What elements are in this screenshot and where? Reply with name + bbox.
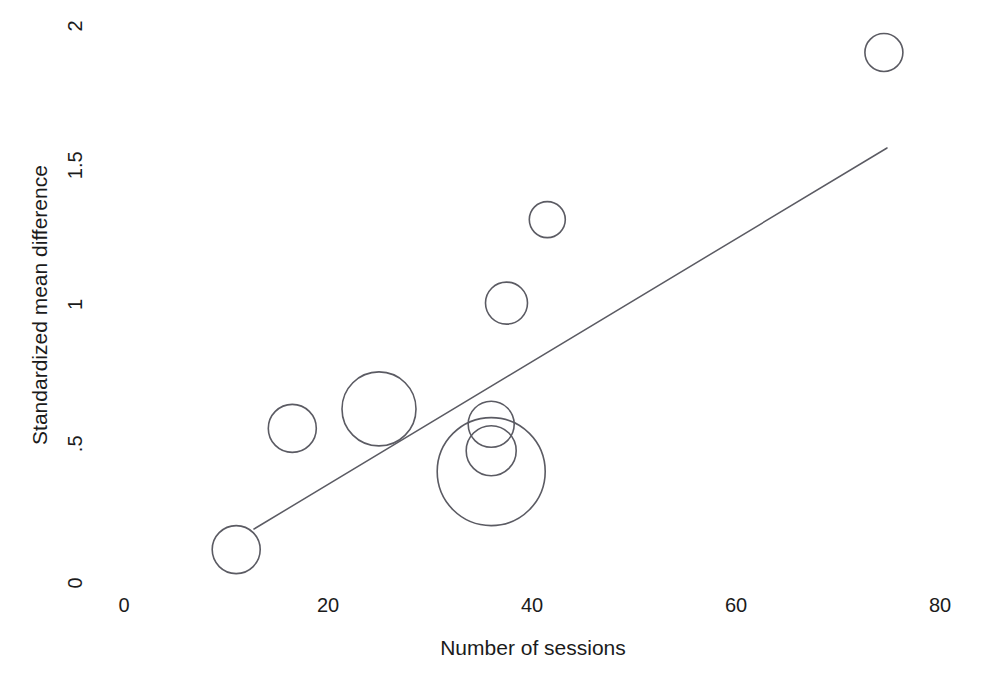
plot-background [0,0,994,689]
y-tick-label-1: 1 [64,299,86,310]
x-tick-label-60: 60 [725,594,747,616]
x-tick-label-20: 20 [317,594,339,616]
y-tick-label-0: 0 [64,577,86,588]
bubble-plot-figure: 0 .5 1 1.5 2 Standardized mean differenc… [0,0,994,689]
y-tick-label-1-5: 1.5 [64,151,86,179]
y-tick-label-2: 2 [64,20,86,31]
y-tick-label-0-5: .5 [64,435,86,452]
x-tick-label-80: 80 [929,594,951,616]
plot-canvas: 0 .5 1 1.5 2 Standardized mean differenc… [0,0,994,689]
y-axis-title: Standardized mean difference [28,165,51,445]
x-tick-label-0: 0 [118,594,129,616]
x-axis-title: Number of sessions [440,636,626,659]
x-tick-label-40: 40 [521,594,543,616]
